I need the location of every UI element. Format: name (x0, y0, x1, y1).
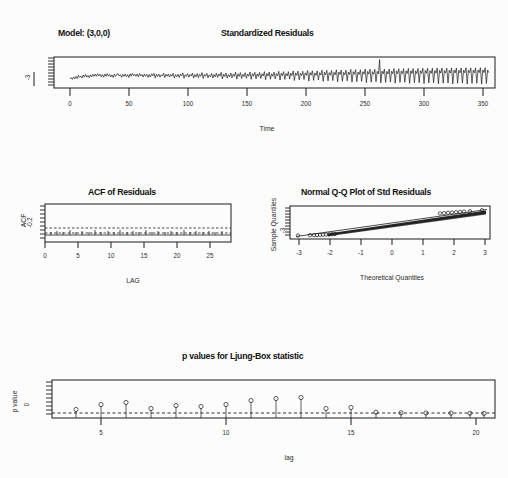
ljung-box-plot (0, 330, 508, 478)
panel-ljung-box-p-values: p values for Ljung-Box statistic p value… (0, 330, 508, 478)
acf-xtick-0: 0 (37, 251, 53, 260)
qq-xtick-neg1: -1 (353, 248, 369, 257)
r-diagnostic-figure: Model: (3,0,0) Standardized Residuals -3 (0, 0, 508, 478)
acf-xtick-5: 5 (70, 251, 86, 260)
standardized-residuals-xtick-350: 350 (475, 99, 491, 108)
standardized-residuals-plot (0, 0, 508, 140)
ljung-box-xtick-10: 10 (218, 428, 234, 437)
panel-acf-of-residuals: ACF of Residuals ACF -0.2 (0, 180, 254, 300)
panel-standardized-residuals: Model: (3,0,0) Standardized Residuals -3 (0, 0, 508, 140)
qq-xtick-neg3: -3 (291, 248, 307, 257)
acf-xtick-10: 10 (103, 251, 119, 260)
standardized-residuals-xtick-100: 100 (180, 99, 196, 108)
qq-xtick-1: 1 (415, 248, 431, 257)
qq-xtick-neg2: -2 (322, 248, 338, 257)
qq-xtick-2: 2 (446, 248, 462, 257)
acf-xtick-25: 25 (202, 251, 218, 260)
ljung-box-xtick-5: 5 (93, 428, 109, 437)
qq-xlabel: Theoretical Quantiles (356, 273, 428, 282)
qq-xtick-0: 0 (384, 248, 400, 257)
standardized-residuals-xlabel: Time (254, 124, 281, 133)
ljung-box-xtick-20: 20 (468, 428, 484, 437)
panel-normal-qq-plot: Normal Q-Q Plot of Std Residuals Sample … (254, 180, 508, 300)
ljung-box-xtick-15: 15 (343, 428, 359, 437)
qq-plot (254, 180, 508, 300)
qq-xtick-3: 3 (477, 248, 493, 257)
standardized-residuals-xtick-300: 300 (416, 99, 432, 108)
standardized-residuals-xtick-50: 50 (121, 99, 137, 108)
standardized-residuals-xtick-150: 150 (239, 99, 255, 108)
standardized-residuals-xtick-200: 200 (298, 99, 314, 108)
acf-xtick-20: 20 (169, 251, 185, 260)
acf-xtick-15: 15 (136, 251, 152, 260)
acf-xlabel: LAG (120, 276, 147, 285)
standardized-residuals-xtick-250: 250 (357, 99, 373, 108)
ljung-box-xlabel: lag (276, 453, 303, 462)
standardized-residuals-xtick-0: 0 (62, 99, 78, 108)
